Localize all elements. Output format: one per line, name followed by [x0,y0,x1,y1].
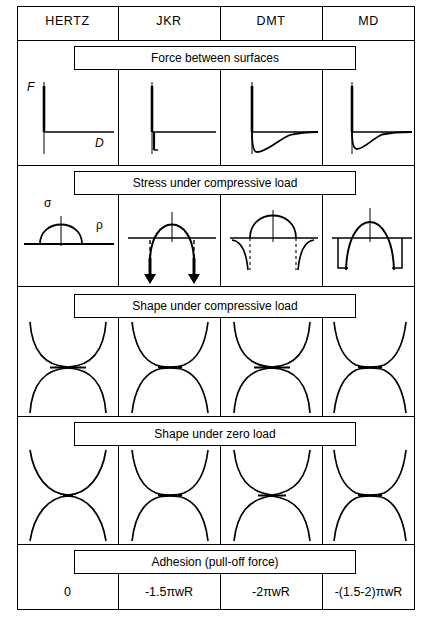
row2-divider-3 [322,195,323,286]
banner-adhesion-pull-off-force: Adhesion (pull-off force) [74,550,356,574]
force-plot-hertz [22,76,117,160]
header-divider-1 [118,6,119,40]
stress-plot-md [326,196,416,286]
header-bottom-rule [17,40,415,41]
shape-compressive-dmt [224,320,320,415]
shape-zeroload-hertz [20,448,116,543]
banner-stress-under-compressive-load: Stress under compressive load [74,171,356,195]
row3-divider-2 [220,318,221,416]
row1-divider-1 [118,70,119,165]
shape-zeroload-md [326,448,414,543]
contact-mechanics-comparison-figure: HERTZ JKR DMT MD Force between surfaces … [0,0,431,622]
stress-plot-dmt [224,196,322,286]
row2-divider-2 [220,195,221,286]
force-plot-md [328,76,416,160]
shape-compressive-hertz [20,320,116,415]
banner-shape-under-zero-load: Shape under zero load [74,422,356,446]
header-divider-2 [220,6,221,40]
column-header-jkr: JKR [118,8,220,34]
shape-compressive-md [326,320,414,415]
shape-compressive-jkr [122,320,218,415]
row4-bottom-rule [17,544,415,545]
adhesion-value-hertz: 0 [17,580,118,604]
header-divider-3 [322,6,323,40]
force-plot-dmt [226,76,321,160]
column-header-md: MD [322,8,415,34]
row2-divider-1 [118,195,119,286]
row3-divider-1 [118,318,119,416]
row1-divider-3 [322,70,323,165]
adhesion-value-md: -(1.5-2)πwR [322,580,415,604]
row1-divider-2 [220,70,221,165]
row4-divider-3 [322,446,323,544]
stress-plot-hertz [20,200,118,286]
column-header-dmt: DMT [220,8,322,34]
row3-bottom-rule [17,416,415,417]
row3-divider-3 [322,318,323,416]
adhesion-value-dmt: -2πwR [220,580,322,604]
row1-bottom-rule [17,165,415,166]
row4-divider-2 [220,446,221,544]
adhesion-value-jkr: -1.5πwR [118,580,220,604]
column-header-hertz: HERTZ [17,8,118,34]
banner-shape-under-compressive-load: Shape under compressive load [74,294,356,318]
force-plot-jkr [124,76,219,160]
stress-plot-jkr [122,196,220,286]
row4-divider-1 [118,446,119,544]
banner-force-between-surfaces: Force between surfaces [74,46,356,70]
shape-zeroload-dmt [224,448,320,543]
row2-bottom-rule [17,286,415,287]
shape-zeroload-jkr [122,448,218,543]
